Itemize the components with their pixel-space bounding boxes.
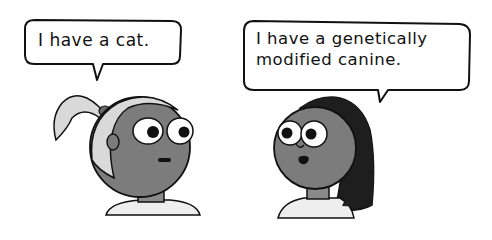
left-speech-text: I have a cat. bbox=[38, 30, 150, 50]
right-shirt bbox=[278, 198, 354, 218]
right-speech-text: I have a genetically modified canine. bbox=[256, 28, 466, 70]
right-speech-line-1: I have a genetically bbox=[256, 28, 466, 49]
right-speech-line-2: modified canine. bbox=[256, 49, 466, 70]
left-character bbox=[54, 96, 200, 215]
right-character bbox=[274, 97, 374, 218]
right-head bbox=[274, 107, 356, 189]
left-speech-bubble bbox=[25, 20, 181, 80]
left-mouth bbox=[158, 158, 171, 162]
